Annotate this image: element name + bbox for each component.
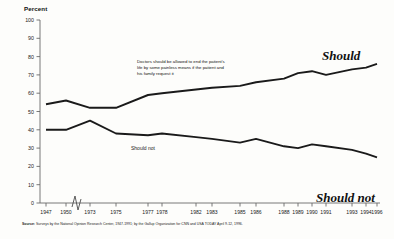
- source-prefix: Source:: [22, 222, 35, 226]
- euthanasia-opinion-line-chart: Percent 1009080706050403020100 194719501…: [0, 0, 394, 239]
- source-note: Source: Surveys by the National Opinion …: [22, 222, 382, 227]
- axis-break-marker: [72, 196, 81, 210]
- series-label-should: Should: [322, 48, 360, 64]
- inline-label-should-not: Should not: [131, 145, 155, 151]
- series-label-should-not: Should not: [316, 190, 375, 206]
- source-text: Surveys by the National Opinion Research…: [36, 222, 243, 226]
- series-line-should-not: [46, 121, 377, 158]
- chart-annotation: Doctors should be allowed to end the pat…: [137, 59, 229, 78]
- y-axis-ticks: [37, 20, 41, 203]
